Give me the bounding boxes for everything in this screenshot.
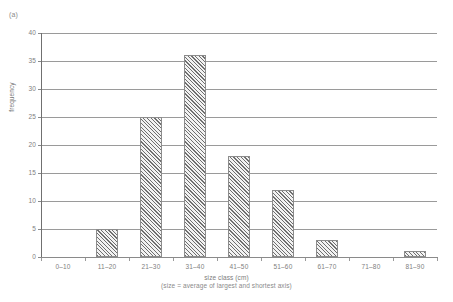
x-tick-mark xyxy=(349,258,350,261)
plot-area xyxy=(41,33,437,257)
x-tick-mark xyxy=(85,258,86,261)
x-tick-label: 51–60 xyxy=(261,263,305,270)
x-tick-mark xyxy=(129,258,130,261)
y-tick-label: 20 xyxy=(10,141,36,148)
y-tick-label: 40 xyxy=(10,29,36,36)
x-tick-mark xyxy=(437,258,438,261)
x-tick-mark xyxy=(217,258,218,261)
x-tick-label: 21–30 xyxy=(129,263,173,270)
x-tick-mark xyxy=(41,258,42,261)
histogram-bar xyxy=(272,190,295,257)
x-tick-mark xyxy=(261,258,262,261)
x-tick-label: 0–10 xyxy=(41,263,85,270)
y-tick-label: 0 xyxy=(10,253,36,260)
x-axis-note: (size = average of largest and shortest … xyxy=(0,282,453,289)
y-tick-label: 35 xyxy=(10,57,36,64)
x-tick-mark xyxy=(173,258,174,261)
histogram-figure: (a) frequency 4035302520151050 0–1011–20… xyxy=(0,0,453,302)
histogram-bar xyxy=(228,156,251,257)
histogram-bar xyxy=(404,251,427,257)
histogram-bar xyxy=(184,55,207,257)
x-tick-label: 71–80 xyxy=(349,263,393,270)
x-tick-label: 61–70 xyxy=(305,263,349,270)
x-tick-mark xyxy=(305,258,306,261)
x-tick-label: 31–40 xyxy=(173,263,217,270)
histogram-bar xyxy=(140,117,163,257)
x-axis-title: size class (cm) xyxy=(0,274,453,281)
histogram-bar xyxy=(96,229,119,257)
histogram-bar xyxy=(316,240,339,257)
x-tick-label: 81–90 xyxy=(393,263,437,270)
y-tick-label: 5 xyxy=(10,225,36,232)
y-tick-label: 25 xyxy=(10,113,36,120)
x-tick-mark xyxy=(393,258,394,261)
x-tick-label: 11–20 xyxy=(85,263,129,270)
y-tick-label: 30 xyxy=(10,85,36,92)
y-axis-title: frequency xyxy=(8,62,15,132)
y-tick-label: 10 xyxy=(10,197,36,204)
y-tick-label: 15 xyxy=(10,169,36,176)
x-tick-label: 41–50 xyxy=(217,263,261,270)
panel-label: (a) xyxy=(9,11,18,18)
x-axis-line xyxy=(41,257,438,258)
